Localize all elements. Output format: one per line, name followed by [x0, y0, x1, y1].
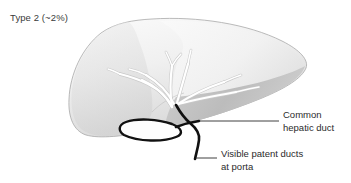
callout-porta-line1: Visible patent ducts [221, 148, 303, 161]
figure-title: Type 2 (~2%) [10, 12, 68, 23]
callout-visible-patent-ducts-at-porta: Visible patent ducts at porta [221, 148, 303, 173]
liver-diagram-figure: Type 2 (~2%) Common hepatic duct Visible… [0, 0, 351, 183]
callout-common-hepatic-duct-line2: hepatic duct [283, 122, 334, 135]
callout-porta-line2: at porta [221, 161, 303, 174]
gallbladder-body [120, 120, 181, 141]
callout-common-hepatic-duct: Common hepatic duct [283, 109, 334, 134]
callout-common-hepatic-duct-line1: Common [283, 109, 334, 122]
liver-body [69, 18, 307, 136]
gallbladder-outline [120, 120, 181, 141]
